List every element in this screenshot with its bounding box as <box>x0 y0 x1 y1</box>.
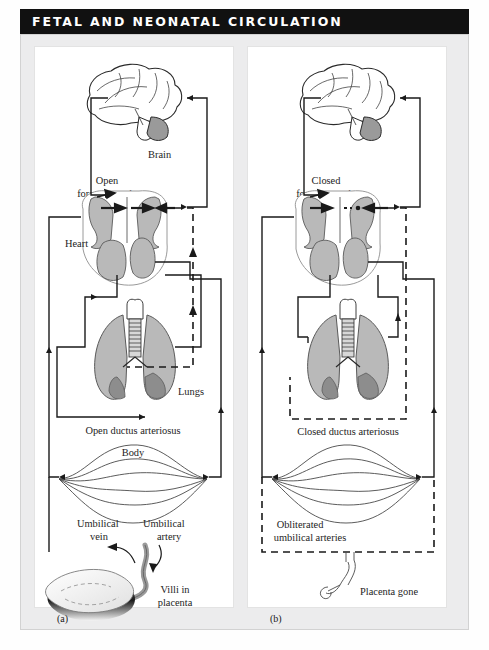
label-open-ductus-arteriosus: Open ductus arteriosus <box>85 425 180 436</box>
label-umbilical-vein-line1: Umbilical <box>77 518 119 529</box>
label-brain: Brain <box>148 149 172 160</box>
label-placenta-line2: placenta <box>158 597 193 608</box>
label-placenta-line1: Villi in <box>160 584 190 595</box>
label-umbilical-artery-line2: artery <box>157 531 182 542</box>
panel-letter-a: (a) <box>57 613 68 624</box>
lungs-illustration <box>95 299 176 399</box>
body-vessel-network <box>272 445 420 523</box>
umbilical-remnant <box>320 552 355 599</box>
label-closed-ductus-arteriosus: Closed ductus arteriosus <box>297 426 399 437</box>
figure-title: FETAL AND NEONATAL CIRCULATION <box>20 14 343 29</box>
figure-title-bar: FETAL AND NEONATAL CIRCULATION <box>20 9 469 34</box>
lungs-illustration <box>308 299 389 399</box>
label-closed-foramen-ovale-line1: Closed <box>312 175 342 186</box>
panel-b-diagram: Closed foramen ovale <box>248 47 448 609</box>
label-placenta-gone: Placenta gone <box>360 586 418 597</box>
figure-frame: Brain Open foramen ovale <box>20 34 469 630</box>
label-obliterated-line2: umbilical arteries <box>274 532 346 543</box>
label-obliterated-line1: Obliterated <box>277 519 325 530</box>
heart-illustration <box>295 191 380 285</box>
label-heart: Heart <box>65 238 88 249</box>
label-body: Body <box>122 447 145 458</box>
brain-illustration <box>87 64 181 140</box>
label-umbilical-artery-line1: Umbilical <box>143 518 185 529</box>
panel-neonatal-circulation: Closed foramen ovale <box>247 46 447 608</box>
label-foramen-ovale-line1: Open <box>96 175 119 186</box>
panel-letter-b: (b) <box>270 613 282 624</box>
heart-illustration <box>82 191 167 285</box>
panel-a-diagram: Brain Open foramen ovale <box>35 47 235 609</box>
neonatal-circulation-path <box>262 98 434 477</box>
panel-fetal-circulation: Brain Open foramen ovale <box>34 46 234 608</box>
label-umbilical-vein-line2: vein <box>90 531 109 542</box>
figure-root: FETAL AND NEONATAL CIRCULATION <box>0 0 489 650</box>
flow-arrowheads <box>46 95 224 480</box>
brain-illustration <box>300 64 394 140</box>
flow-arrowheads <box>259 95 437 480</box>
label-lungs: Lungs <box>178 386 204 397</box>
